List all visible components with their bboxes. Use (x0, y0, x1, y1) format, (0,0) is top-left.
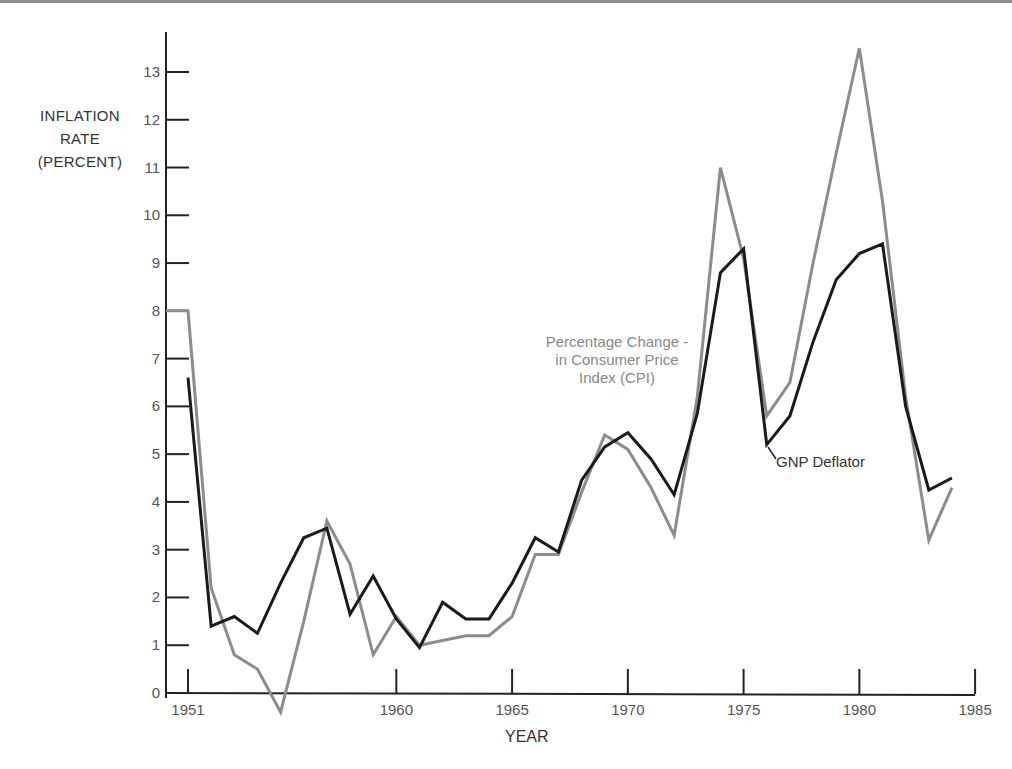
gnp-deflator-line (188, 244, 952, 648)
y-tick-label: 9 (140, 254, 160, 271)
y-tick-label: 13 (140, 63, 160, 80)
gnp-annotation: GNP Deflator (776, 453, 865, 471)
y-tick-label: 12 (140, 111, 160, 128)
cpi-annotation: Percentage Change - in Consumer Price In… (512, 333, 722, 387)
y-tick-label: 8 (140, 302, 160, 319)
x-tick-label: 1970 (611, 701, 644, 718)
x-tick-label: 1985 (958, 701, 991, 718)
x-tick-label: 1980 (843, 701, 876, 718)
gnp-leader-line (768, 447, 776, 459)
x-tick-label: 1975 (727, 701, 760, 718)
y-tick-label: 0 (140, 684, 160, 701)
gnp-annotation-line: GNP Deflator (776, 453, 865, 471)
x-axis-title: YEAR (505, 728, 549, 746)
y-tick-label: 1 (140, 636, 160, 653)
y-tick-label: 7 (140, 350, 160, 367)
x-tick-label: 1960 (380, 701, 413, 718)
cpi-annotation-line: Index (CPI) (512, 369, 722, 387)
x-axis-line (166, 693, 975, 695)
x-tick-label: 1965 (495, 701, 528, 718)
y-tick-label: 3 (140, 541, 160, 558)
y-tick-label: 6 (140, 397, 160, 414)
y-tick-label: 2 (140, 588, 160, 605)
cpi-annotation-line: in Consumer Price (512, 351, 722, 369)
x-tick-label: 1951 (171, 701, 204, 718)
y-tick-label: 11 (140, 159, 160, 176)
y-tick-label: 4 (140, 493, 160, 510)
y-tick-label: 5 (140, 445, 160, 462)
y-tick-label: 10 (140, 206, 160, 223)
cpi-annotation-line: Percentage Change - (512, 333, 722, 351)
